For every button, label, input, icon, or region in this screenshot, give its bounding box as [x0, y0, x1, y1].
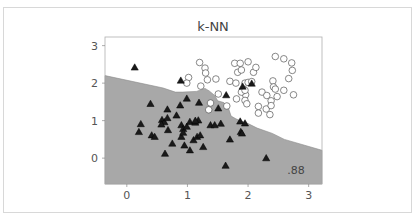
- y-tick-label: 1: [91, 115, 98, 128]
- circle-marker: [281, 56, 288, 63]
- circle-marker: [196, 59, 203, 66]
- chart-title: k-NN: [197, 19, 229, 34]
- circle-marker: [233, 96, 240, 103]
- circle-marker: [202, 70, 209, 77]
- circle-marker: [290, 92, 297, 99]
- circle-marker: [205, 107, 212, 114]
- circle-marker: [270, 78, 277, 85]
- y-axis: 0123: [91, 40, 105, 166]
- x-tick-label: 2: [245, 189, 252, 202]
- knn-chart: k-NN 0123 0123 .88: [0, 0, 417, 221]
- plot-area: [105, 37, 322, 184]
- circle-marker: [272, 53, 279, 60]
- circle-marker: [244, 101, 251, 108]
- y-tick-label: 2: [91, 77, 98, 90]
- circle-marker: [267, 111, 274, 118]
- circle-marker: [281, 87, 288, 94]
- circle-marker: [238, 67, 245, 74]
- x-tick-label: 1: [184, 189, 191, 202]
- circle-marker: [245, 59, 252, 66]
- circle-marker: [268, 102, 275, 109]
- circle-marker: [253, 64, 260, 71]
- circle-marker: [274, 93, 281, 100]
- score-annotation: .88: [287, 164, 305, 177]
- circle-marker: [255, 110, 262, 117]
- circle-marker: [224, 103, 231, 110]
- circle-marker: [204, 77, 211, 84]
- circle-marker: [233, 80, 240, 87]
- circle-marker: [198, 83, 205, 90]
- circle-marker: [289, 67, 296, 74]
- circle-marker: [227, 78, 234, 85]
- x-tick-label: 3: [305, 189, 312, 202]
- circle-marker: [255, 103, 262, 110]
- circle-marker: [207, 100, 214, 107]
- circle-marker: [285, 75, 292, 82]
- circle-marker: [272, 86, 279, 93]
- circle-marker: [215, 91, 222, 98]
- circle-marker: [288, 60, 295, 67]
- circle-marker: [237, 60, 244, 67]
- x-tick-label: 0: [123, 189, 130, 202]
- y-tick-label: 3: [91, 40, 98, 53]
- circle-marker: [213, 76, 220, 83]
- x-axis: 0123: [123, 184, 312, 202]
- y-tick-label: 0: [91, 152, 98, 165]
